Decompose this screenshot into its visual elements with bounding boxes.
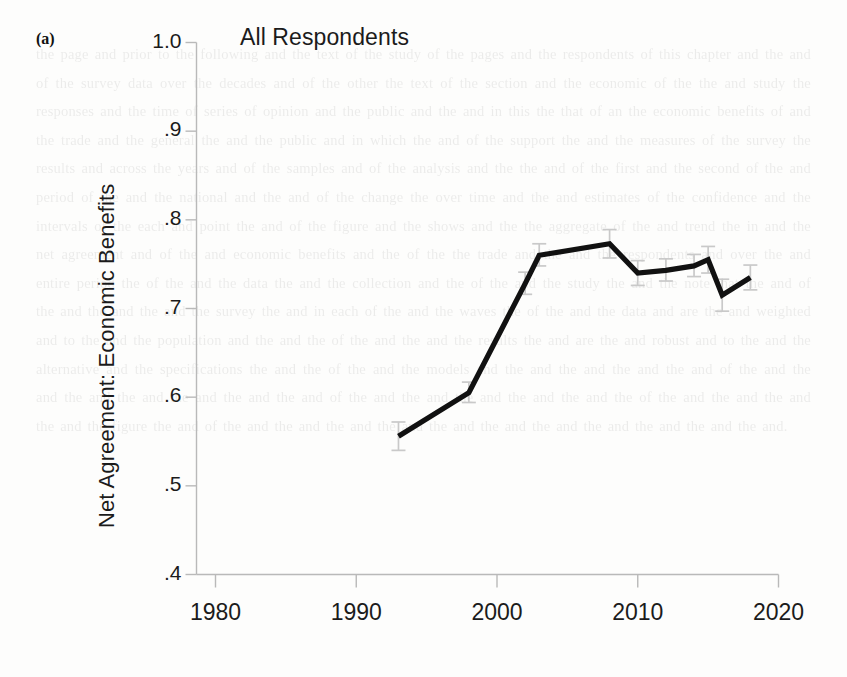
x-tick-label: 1990 <box>301 599 411 626</box>
y-tick-label: .5 <box>122 472 182 496</box>
figure-page: the page and prior to the following and … <box>0 0 847 677</box>
series-line-all-respondents <box>398 244 750 436</box>
x-tick-label: 2020 <box>724 599 834 626</box>
y-tick-label: .8 <box>122 206 182 230</box>
x-tick-label: 1980 <box>161 599 271 626</box>
y-tick-label: .6 <box>122 383 182 407</box>
y-tick-label: 1.0 <box>122 29 182 53</box>
y-tick-label: .7 <box>122 295 182 319</box>
y-tick-label: .9 <box>122 117 182 141</box>
y-tick-label: .4 <box>122 561 182 585</box>
x-tick-label: 2010 <box>583 599 693 626</box>
x-tick-label: 2000 <box>442 599 552 626</box>
error-bar <box>743 265 757 290</box>
